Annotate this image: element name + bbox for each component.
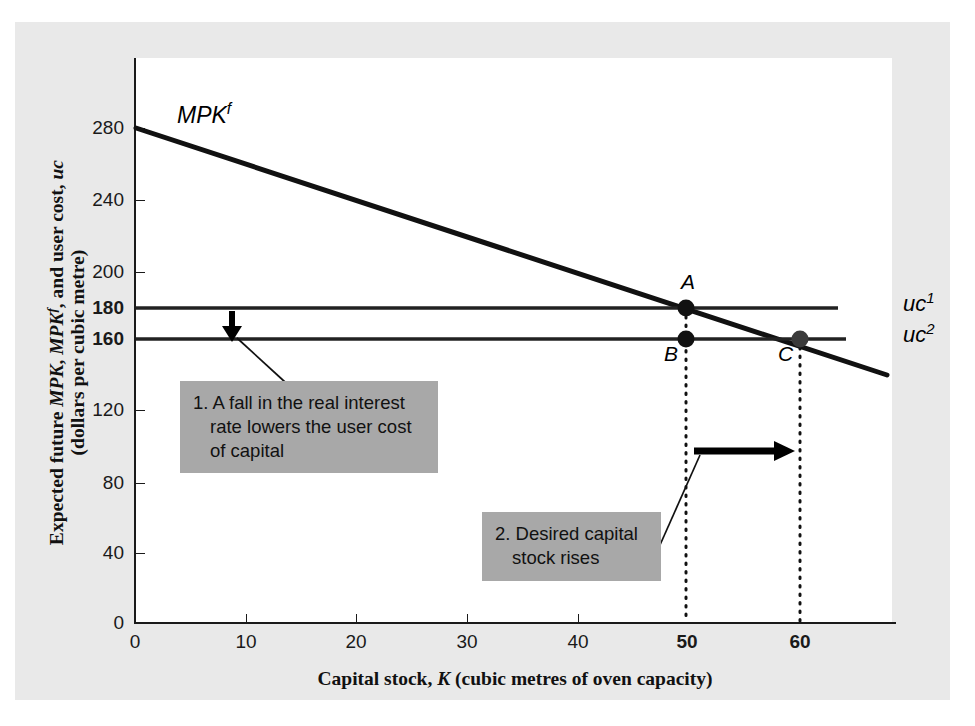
mpk-f-curve-label: MPKf (177, 100, 231, 129)
x-tick-label: 10 (216, 631, 276, 653)
y-tick-mark (136, 272, 145, 273)
x-tick-mark (246, 614, 247, 622)
annotation-2-line2: stock rises (495, 546, 648, 570)
figure-root: 280 240 200 180 160 120 80 40 0 0 10 20 … (0, 0, 975, 726)
x-tick-label: 40 (548, 631, 608, 653)
uc2-curve-label: uc2 (903, 320, 935, 348)
point-a-label: A (681, 270, 695, 294)
x-tick-mark (356, 614, 357, 622)
point-b-label: B (664, 342, 678, 366)
y-axis-title-units: (dollars per cubic metre) (68, 250, 89, 456)
y-tick-mark (136, 410, 145, 411)
y-axis-title: Expected future MPK, MPKf, and user cost… (44, 53, 89, 653)
y-tick-mark (136, 483, 145, 484)
annotation-2-line1: 2. Desired capital (495, 522, 648, 546)
x-tick-label: 0 (105, 631, 165, 653)
y-tick-mark (136, 200, 145, 201)
x-tick-mark (578, 614, 579, 622)
y-axis-line (134, 58, 136, 624)
x-tick-mark (467, 614, 468, 622)
x-tick-label: 50 (657, 631, 717, 653)
y-axis-title-line1: Expected future MPK, MPKf, and user cost… (46, 160, 67, 545)
uc1-curve-label: uc1 (903, 289, 935, 317)
annotation-1-line3: of capital (193, 439, 425, 463)
x-axis-line (134, 622, 896, 624)
y-tick-mark (136, 128, 145, 129)
annotation-callout-2: 2. Desired capital stock rises (482, 512, 661, 581)
x-tick-label: 20 (326, 631, 386, 653)
annotation-1-line1: 1. A fall in the real interest (193, 391, 425, 415)
x-axis-title: Capital stock, K (cubic metres of oven c… (135, 668, 895, 690)
x-tick-label: 30 (437, 631, 497, 653)
point-c-label: C (778, 342, 793, 366)
annotation-1-line2: rate lowers the user cost (193, 415, 425, 439)
y-tick-mark (136, 553, 145, 554)
x-tick-label: 60 (770, 631, 830, 653)
annotation-callout-1: 1. A fall in the real interest rate lowe… (180, 381, 438, 473)
